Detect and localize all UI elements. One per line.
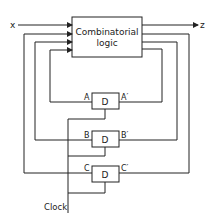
combinatorial-logic-block (72, 17, 142, 57)
flipflop-a-output-label: A′ (121, 93, 128, 102)
feedback-c-wire (24, 34, 92, 173)
clock-stub-a (68, 109, 105, 119)
logic-label-line2: logic (96, 38, 117, 48)
flipflop-a-input-label: A (84, 93, 90, 102)
sequential-circuit-diagram: x z Combinatorial logic D A A′ D B B′ D … (0, 0, 211, 220)
flipflop-c-output-label: C′ (121, 164, 129, 173)
flipflop-b-type: D (102, 135, 109, 145)
flipflop-b-input-label: B (84, 131, 90, 140)
flipflop-a-type: D (102, 97, 109, 107)
flipflop-c-input-label: C (84, 164, 90, 173)
diagram-canvas: x z Combinatorial logic D A A′ D B B′ D … (0, 0, 211, 220)
output-z-label: z (200, 20, 205, 30)
clock-stub-c (68, 182, 105, 193)
logic-label-line1: Combinatorial (75, 27, 138, 37)
input-x-label: x (10, 20, 16, 30)
feedback-c-prime-wire (119, 34, 189, 173)
clock-label: Clock (44, 202, 67, 212)
flipflop-b-output-label: B′ (121, 131, 128, 140)
clock-stub-b (68, 147, 105, 156)
flipflop-c-type: D (102, 170, 109, 180)
